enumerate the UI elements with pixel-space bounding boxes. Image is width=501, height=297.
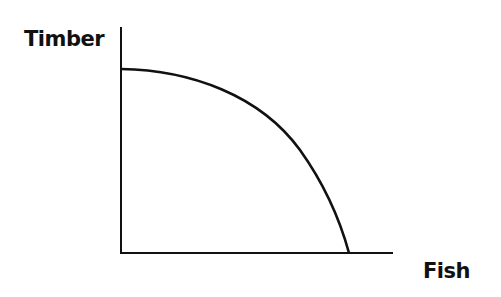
ppf-curve (121, 69, 349, 253)
ppf-chart: Timber Fish (0, 0, 501, 297)
y-axis-label: Timber (24, 27, 104, 51)
x-axis-label: Fish (423, 259, 470, 283)
